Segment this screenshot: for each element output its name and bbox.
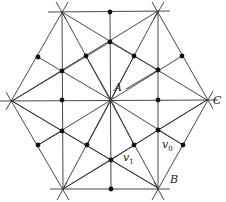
- label-v1: v1: [123, 152, 134, 166]
- vertex-dot: [180, 54, 185, 59]
- vertex-dot: [36, 55, 41, 60]
- vertex-dot: [109, 158, 114, 163]
- vertex-dot: [84, 54, 89, 59]
- vertex-dot: [60, 98, 65, 103]
- vertex-dot: [85, 143, 90, 148]
- diagram-lines: [0, 2, 218, 200]
- vertex-dot: [108, 40, 113, 45]
- vertex-dot: [60, 69, 65, 74]
- vertex-dot: [181, 143, 186, 148]
- label-v0: v0: [162, 139, 173, 153]
- label-B: B: [170, 174, 178, 185]
- vertex-dot: [132, 143, 137, 148]
- vertex-dot: [156, 68, 161, 73]
- hexagon-subdivision-diagram: [0, 0, 226, 202]
- label-A: A: [114, 82, 122, 93]
- label-C: C: [213, 95, 221, 106]
- vertex-dot: [132, 54, 137, 59]
- vertex-dot: [156, 98, 161, 103]
- vertex-dot: [60, 129, 65, 134]
- vertex-dot: [36, 143, 41, 148]
- vertex-dot: [156, 128, 161, 133]
- vertex-dot: [108, 10, 113, 15]
- vertex-dot: [109, 187, 114, 192]
